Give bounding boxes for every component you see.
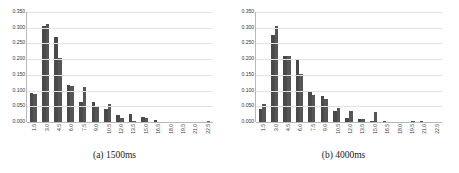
y-tick-label: 0.350 bbox=[13, 9, 25, 14]
gridline bbox=[256, 75, 442, 76]
y-tick-label: 0.150 bbox=[13, 72, 25, 77]
plot-area-a bbox=[26, 12, 213, 122]
x-tick-cell: 6.0 bbox=[292, 123, 304, 145]
x-tick-cell: 1.5 bbox=[26, 123, 38, 145]
y-tick-label: 0.050 bbox=[242, 104, 254, 109]
x-tick-cell: 13.5 bbox=[125, 123, 137, 145]
x-tick-label: 16.5 bbox=[156, 124, 161, 134]
x-tick-label: 3.0 bbox=[45, 124, 50, 131]
x-tick-cell: 21.0 bbox=[416, 123, 428, 145]
x-tick-label: 18.0 bbox=[169, 124, 174, 134]
x-tick-cell: 22.5 bbox=[200, 123, 212, 145]
x-tick-cell: 21.0 bbox=[187, 123, 199, 145]
gridline bbox=[27, 43, 213, 44]
x-tick-label: 12.0 bbox=[348, 124, 353, 134]
x-tick-label: 21.0 bbox=[422, 124, 427, 134]
gridline bbox=[256, 106, 442, 107]
bar bbox=[83, 87, 87, 122]
gridline bbox=[27, 59, 213, 60]
bar bbox=[337, 108, 341, 122]
chart-panel-a: 0.3500.3000.2500.2000.1500.1000.0500.000… bbox=[0, 0, 229, 173]
y-tick-label: 0.100 bbox=[13, 88, 25, 93]
y-axis-labels-a: 0.3500.3000.2500.2000.1500.1000.0500.000 bbox=[3, 6, 25, 128]
plot-wrapper-b: 0.3500.3000.2500.2000.1500.1000.0500.000… bbox=[229, 0, 458, 145]
x-tick-label: 7.5 bbox=[82, 124, 87, 131]
x-tick-cell: 15.0 bbox=[367, 123, 379, 145]
x-tick-label: 9.0 bbox=[323, 124, 328, 131]
gridline bbox=[27, 28, 213, 29]
x-tick-label: 15.0 bbox=[373, 124, 378, 134]
gridline bbox=[256, 91, 442, 92]
gridline bbox=[27, 12, 213, 13]
x-tick-cell: 9.0 bbox=[88, 123, 100, 145]
x-tick-cell: 16.5 bbox=[150, 123, 162, 145]
x-tick-label: 7.5 bbox=[311, 124, 316, 131]
y-tick-label: 0.300 bbox=[242, 25, 254, 30]
x-tick-label: 19.5 bbox=[181, 124, 186, 134]
bar bbox=[312, 95, 316, 122]
x-tick-cell: 15.0 bbox=[138, 123, 150, 145]
y-tick-label: 0.150 bbox=[242, 72, 254, 77]
x-tick-label: 13.5 bbox=[360, 124, 365, 134]
bar bbox=[374, 112, 378, 122]
bar bbox=[95, 106, 99, 122]
x-tick-cell: 1.5 bbox=[255, 123, 267, 145]
x-tick-cell: 12.0 bbox=[113, 123, 125, 145]
x-tick-cell: 3.0 bbox=[38, 123, 50, 145]
x-tick-cell: 10.5 bbox=[100, 123, 112, 145]
x-tick-cell: 10.5 bbox=[329, 123, 341, 145]
gridline bbox=[256, 59, 442, 60]
x-tick-label: 19.5 bbox=[410, 124, 415, 134]
gridline bbox=[256, 28, 442, 29]
x-tick-cell: 6.0 bbox=[63, 123, 75, 145]
chart-panel-b: 0.3500.3000.2500.2000.1500.1000.0500.000… bbox=[229, 0, 458, 173]
x-tick-label: 3.0 bbox=[274, 124, 279, 131]
figure-container: 0.3500.3000.2500.2000.1500.1000.0500.000… bbox=[0, 0, 459, 173]
x-tick-cell: 4.5 bbox=[280, 123, 292, 145]
x-tick-label: 22.5 bbox=[435, 124, 440, 134]
bar bbox=[349, 111, 353, 122]
bar bbox=[299, 74, 303, 122]
y-tick-label: 0.200 bbox=[242, 57, 254, 62]
x-tick-cell: 7.5 bbox=[305, 123, 317, 145]
x-tick-label: 13.5 bbox=[131, 124, 136, 134]
gridline bbox=[256, 12, 442, 13]
x-axis-labels-b: 1.53.04.56.07.59.010.512.013.515.016.518… bbox=[255, 123, 441, 145]
y-tick-label: 0.250 bbox=[13, 41, 25, 46]
gridline bbox=[27, 106, 213, 107]
y-tick-label: 0.200 bbox=[13, 57, 25, 62]
x-tick-label: 12.0 bbox=[119, 124, 124, 134]
bar bbox=[46, 24, 50, 122]
x-tick-label: 9.0 bbox=[94, 124, 99, 131]
x-tick-label: 18.0 bbox=[398, 124, 403, 134]
x-tick-cell: 13.5 bbox=[354, 123, 366, 145]
x-tick-cell: 12.0 bbox=[342, 123, 354, 145]
x-tick-label: 1.5 bbox=[32, 124, 37, 131]
x-tick-label: 16.5 bbox=[385, 124, 390, 134]
x-tick-label: 21.0 bbox=[193, 124, 198, 134]
x-tick-label: 4.5 bbox=[57, 124, 62, 131]
x-tick-cell: 18.0 bbox=[162, 123, 174, 145]
x-tick-label: 1.5 bbox=[261, 124, 266, 131]
gridline bbox=[27, 91, 213, 92]
x-tick-label: 15.0 bbox=[144, 124, 149, 134]
y-tick-label: 0.000 bbox=[13, 119, 25, 124]
plot-wrapper-a: 0.3500.3000.2500.2000.1500.1000.0500.000… bbox=[0, 0, 229, 145]
panel-caption-b: (b) 4000ms bbox=[229, 150, 458, 160]
x-tick-cell: 18.0 bbox=[391, 123, 403, 145]
gridline bbox=[27, 75, 213, 76]
panel-caption-a: (a) 1500ms bbox=[0, 150, 229, 160]
y-tick-label: 0.350 bbox=[242, 9, 254, 14]
x-tick-label: 10.5 bbox=[336, 124, 341, 134]
x-axis-labels-a: 1.53.04.56.07.59.010.512.013.515.016.518… bbox=[26, 123, 212, 145]
bar bbox=[324, 99, 328, 122]
y-tick-label: 0.250 bbox=[242, 41, 254, 46]
x-tick-cell: 19.5 bbox=[404, 123, 416, 145]
x-tick-cell: 16.5 bbox=[379, 123, 391, 145]
x-tick-cell: 4.5 bbox=[51, 123, 63, 145]
y-axis-labels-b: 0.3500.3000.2500.2000.1500.1000.0500.000 bbox=[232, 6, 254, 128]
x-tick-cell: 9.0 bbox=[317, 123, 329, 145]
y-tick-label: 0.300 bbox=[13, 25, 25, 30]
y-tick-label: 0.050 bbox=[13, 104, 25, 109]
bar bbox=[33, 94, 37, 122]
